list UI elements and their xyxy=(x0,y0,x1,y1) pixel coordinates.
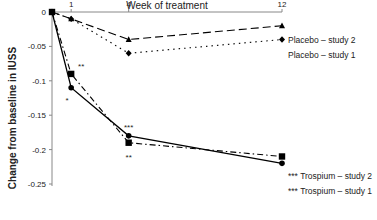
plot-series: ******** xyxy=(49,9,285,166)
legend-label: *** Trospium – study 1 xyxy=(288,186,372,196)
series-3: **** xyxy=(49,9,285,166)
line-chart: Week of treatment 1412 0-0.05-0.1-0.15-0… xyxy=(0,0,377,220)
diamond-marker xyxy=(279,36,285,42)
y-tick-label: 0 xyxy=(42,8,47,17)
legend-label: *** Trospium – study 2 xyxy=(288,171,372,181)
x-tick-label: 1 xyxy=(69,0,74,9)
diamond-marker xyxy=(126,50,132,56)
y-tick-label: -0.15 xyxy=(28,111,47,120)
circle-marker xyxy=(68,85,74,91)
y-tick-label: -0.25 xyxy=(28,180,47,189)
series-2: **** xyxy=(49,9,285,162)
series-0 xyxy=(49,9,285,42)
y-tick-label: -0.1 xyxy=(32,77,46,86)
x-axis-title: Week of treatment xyxy=(126,0,208,11)
series-line xyxy=(52,12,282,53)
series-line xyxy=(52,12,282,40)
y-axis: 0-0.05-0.1-0.15-0.2-0.25 xyxy=(28,8,52,189)
circle-marker xyxy=(49,9,55,15)
y-tick-label: -0.05 xyxy=(28,42,47,51)
square-marker xyxy=(125,140,131,146)
legend-label: Placebo – study 2 xyxy=(288,35,356,45)
circle-marker xyxy=(279,161,285,167)
significance-mark: *** xyxy=(124,123,133,132)
legend: Placebo – study 2Placebo – study 1*** Tr… xyxy=(288,35,372,196)
triangle-marker xyxy=(279,23,285,29)
significance-mark: ** xyxy=(126,153,132,162)
circle-marker xyxy=(126,133,132,139)
significance-mark: * xyxy=(66,96,69,105)
y-tick-label: -0.2 xyxy=(32,146,46,155)
square-marker xyxy=(68,71,74,77)
series-1 xyxy=(49,9,285,57)
significance-mark: ** xyxy=(78,62,84,71)
series-line xyxy=(52,12,282,163)
y-axis-title: Change from baseline in IUSS xyxy=(7,47,18,190)
x-tick-label: 12 xyxy=(278,0,287,9)
series-line xyxy=(52,12,282,156)
square-marker xyxy=(279,153,285,159)
legend-label: Placebo – study 1 xyxy=(288,50,356,60)
x-tick-label: 4 xyxy=(126,0,131,9)
